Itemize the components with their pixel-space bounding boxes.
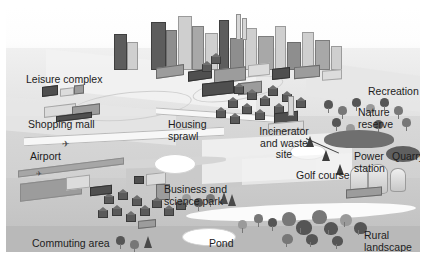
science-park-building xyxy=(134,176,144,184)
hill-mass xyxy=(324,130,394,148)
airplane-icon: ✈ xyxy=(62,140,70,149)
city-block xyxy=(294,65,320,79)
label-nature-reserve: Nature reserve xyxy=(358,107,393,130)
house xyxy=(126,214,136,222)
tree xyxy=(324,100,333,109)
skyscraper xyxy=(275,26,286,70)
conifer-tree xyxy=(144,236,152,248)
house xyxy=(164,208,174,216)
house xyxy=(255,112,265,120)
house xyxy=(140,208,150,216)
tree xyxy=(324,222,338,235)
label-commuting-area: Commuting area xyxy=(32,238,110,250)
industrial-chimney xyxy=(242,18,247,40)
city-block xyxy=(248,63,270,77)
skyscraper xyxy=(127,42,138,70)
label-airport: Airport xyxy=(30,151,61,163)
house xyxy=(268,88,278,96)
label-business-science-park: Business and science park xyxy=(164,184,227,207)
skyscraper xyxy=(166,30,177,70)
incinerator-chimney xyxy=(288,96,294,116)
industrial-chimney xyxy=(236,14,241,40)
label-power-station: Power station xyxy=(354,151,385,174)
leisure-building xyxy=(42,85,58,97)
house xyxy=(104,196,114,204)
conifer-tree xyxy=(228,194,236,206)
tree xyxy=(312,210,327,224)
tree xyxy=(332,236,343,246)
tree xyxy=(116,236,125,245)
house xyxy=(98,210,108,218)
label-rural-landscape: Rural landscape xyxy=(364,230,412,252)
tree xyxy=(238,220,247,229)
tree xyxy=(402,118,411,127)
leisure-building xyxy=(74,84,84,94)
landscape-illustration: ✈ ✈ Leisure complex Sh xyxy=(6,8,420,252)
skyscraper xyxy=(302,32,314,70)
tree xyxy=(306,234,318,245)
tree xyxy=(282,212,296,226)
skyscraper xyxy=(151,22,166,70)
label-housing-sprawl: Housing sprawl xyxy=(168,119,207,142)
house xyxy=(234,86,244,94)
house xyxy=(247,92,257,100)
label-golf-course: Golf course xyxy=(296,170,350,182)
pond-water xyxy=(154,154,196,174)
label-shopping-mall: Shopping mall xyxy=(28,119,95,131)
house xyxy=(211,56,221,64)
house xyxy=(152,200,162,208)
city-block xyxy=(322,69,342,81)
label-incinerator-waste-site: Incinerator and waste site xyxy=(244,126,324,161)
house xyxy=(230,116,240,124)
label-leisure-complex: Leisure complex xyxy=(26,74,102,86)
house xyxy=(296,100,306,108)
skyscraper xyxy=(230,38,244,70)
tree xyxy=(340,214,352,226)
house xyxy=(118,192,128,200)
skyscraper xyxy=(178,16,192,70)
tree xyxy=(332,118,341,127)
city-block xyxy=(272,67,290,80)
house xyxy=(260,98,270,106)
house xyxy=(202,64,212,72)
label-pond: Pond xyxy=(209,238,234,250)
tree xyxy=(338,106,347,115)
house xyxy=(242,106,252,114)
airplane-icon: ✈ xyxy=(36,169,42,178)
label-recreation: Recreation xyxy=(368,86,419,98)
tree xyxy=(268,218,277,227)
skyscraper xyxy=(331,46,342,70)
label-quarry: Quarry xyxy=(392,151,420,163)
skyscraper xyxy=(114,34,127,70)
house xyxy=(112,208,122,216)
house xyxy=(216,110,226,118)
leisure-building xyxy=(60,87,74,97)
tree xyxy=(130,240,139,249)
tree xyxy=(394,106,403,115)
tree xyxy=(282,234,293,244)
house xyxy=(228,100,238,108)
cooling-tower xyxy=(390,168,406,192)
tree xyxy=(296,220,312,235)
tree xyxy=(254,214,263,223)
